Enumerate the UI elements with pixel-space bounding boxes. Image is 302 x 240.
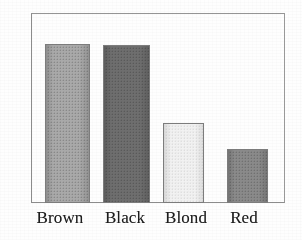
bar-blond-shading	[164, 124, 203, 202]
x-axis-labels: Brown Black Blond Red	[0, 207, 302, 235]
x-label-brown: Brown	[29, 207, 91, 229]
bar-blond	[163, 123, 204, 203]
bar-red-shading	[228, 150, 267, 202]
x-label-red: Red	[220, 207, 268, 229]
bar-black-shading	[104, 46, 149, 202]
x-label-blond: Blond	[157, 207, 215, 229]
bar-chart-figure: Brown Black Blond Red	[0, 0, 302, 240]
bar-brown-shading	[46, 45, 89, 202]
bar-brown	[45, 44, 90, 203]
bar-red	[227, 149, 268, 203]
x-label-black: Black	[96, 207, 154, 229]
bars-group	[31, 13, 285, 203]
bar-black	[103, 45, 150, 203]
